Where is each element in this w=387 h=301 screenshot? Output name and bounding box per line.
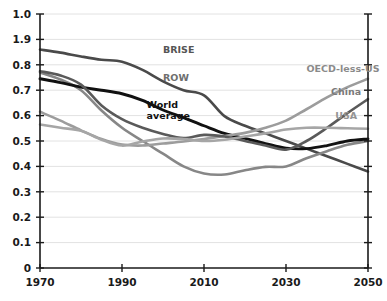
series-label-oecd-less-us: OECD-less-US xyxy=(307,63,380,74)
y-tick-label-6: 0.4 xyxy=(12,160,31,172)
y-tick-label-3: 0.7 xyxy=(12,84,31,96)
series-label-line: USA xyxy=(335,110,358,121)
x-axis-tick-labels: 19701990201020302050 xyxy=(25,276,382,288)
series-label-brise: BRISE xyxy=(163,44,194,55)
y-tick-label-2: 0.8 xyxy=(12,59,31,71)
y-tick-label-1: 1.9 xyxy=(12,33,31,45)
x-tick-label-4: 2050 xyxy=(353,276,382,288)
series-label-line: OECD-less-US xyxy=(307,63,380,74)
series-label-usa: USA xyxy=(335,110,358,121)
y-tick-label-4: 0.6 xyxy=(12,109,31,121)
x-tick-label-2: 2010 xyxy=(189,276,218,288)
y-tick-label-10: 0 xyxy=(24,262,31,274)
series-label-line: average xyxy=(147,110,190,121)
y-tick-label-8: 0.2 xyxy=(12,211,31,223)
y-tick-label-5: 0.5 xyxy=(12,135,31,147)
series-inline-labels: BRISEROWWorldaverageOECD-less-USChinaUSA xyxy=(147,44,380,121)
series-label-line: ROW xyxy=(163,72,189,83)
axes xyxy=(36,14,372,272)
series-label-world-average: Worldaverage xyxy=(147,99,190,121)
chart-canvas: 1.01.90.80.70.60.50.40.30.20.10 19701990… xyxy=(0,0,387,301)
series-label-line: China xyxy=(331,86,361,97)
x-tick-label-0: 1970 xyxy=(25,276,54,288)
x-tick-label-1: 1990 xyxy=(107,276,136,288)
y-tick-label-0: 1.0 xyxy=(12,8,31,20)
series-label-china: China xyxy=(331,86,361,97)
series-label-row: ROW xyxy=(163,72,189,83)
y-tick-label-7: 0.3 xyxy=(12,186,31,198)
x-tick-label-3: 2030 xyxy=(271,276,300,288)
series-label-line: BRISE xyxy=(163,44,194,55)
y-tick-label-9: 0.1 xyxy=(12,236,31,248)
line-chart: 1.01.90.80.70.60.50.40.30.20.10 19701990… xyxy=(0,0,387,301)
y-axis-tick-labels: 1.01.90.80.70.60.50.40.30.20.10 xyxy=(12,8,31,274)
series-label-line: World xyxy=(147,99,178,110)
